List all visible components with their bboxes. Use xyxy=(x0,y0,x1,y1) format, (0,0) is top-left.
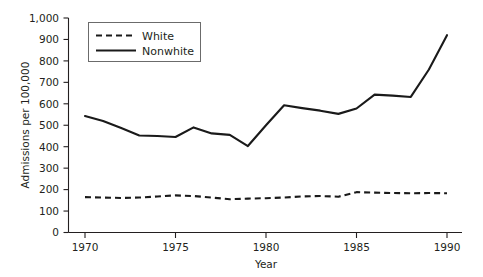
chart-figure: 1,000 900 800 700 600 500 400 300 200 10… xyxy=(0,0,483,277)
chart-legend: White Nonwhite xyxy=(89,23,201,62)
legend-label-white: White xyxy=(142,30,174,43)
x-axis-tick-labels: 1970 1975 1980 1985 1990 xyxy=(72,241,461,253)
y-tick-label: 900 xyxy=(39,33,59,45)
x-tick-label: 1970 xyxy=(72,241,99,253)
y-tick-label: 800 xyxy=(39,55,59,67)
x-tick-label: 1980 xyxy=(253,241,280,253)
legend-label-nonwhite: Nonwhite xyxy=(142,45,194,58)
x-tick-label: 1975 xyxy=(162,241,189,253)
y-tick-label: 300 xyxy=(39,162,59,174)
series-line-white xyxy=(85,192,447,199)
line-chart: 1,000 900 800 700 600 500 400 300 200 10… xyxy=(0,0,483,277)
y-tick-label: 700 xyxy=(39,76,59,88)
x-axis-ticks xyxy=(85,233,447,239)
x-axis-title: Year xyxy=(254,258,278,270)
x-tick-label: 1990 xyxy=(434,241,461,253)
y-tick-label: 0 xyxy=(52,226,59,238)
y-tick-label: 200 xyxy=(39,183,59,195)
y-axis-title: Admissions per 100,000 xyxy=(19,62,31,189)
y-tick-label: 600 xyxy=(39,98,59,110)
y-axis-ticks xyxy=(64,18,69,233)
x-tick-label: 1985 xyxy=(343,241,370,253)
y-tick-label: 500 xyxy=(39,119,59,131)
y-tick-label: 100 xyxy=(39,205,59,217)
y-axis-tick-labels: 1,000 900 800 700 600 500 400 300 200 10… xyxy=(29,12,59,239)
y-tick-label: 1,000 xyxy=(29,12,59,24)
y-tick-label: 400 xyxy=(39,141,59,153)
